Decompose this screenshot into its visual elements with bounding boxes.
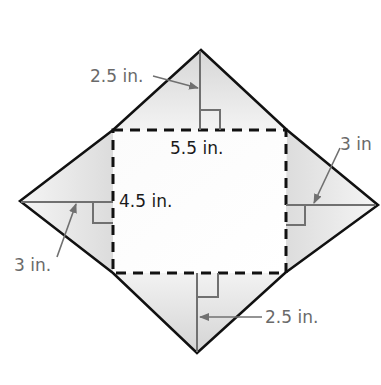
bottom-flap: [113, 273, 285, 353]
base-height-label: 4.5 in.: [119, 191, 172, 211]
pyramid-net-diagram: 2.5 in. 5.5 in. 4.5 in. 3 in 3 in. 2.5 i…: [0, 0, 381, 385]
left-flap-height-label: 3 in.: [14, 255, 51, 275]
top-flap-height-label: 2.5 in.: [90, 66, 143, 86]
right-flap-height-label: 3 in: [340, 134, 372, 154]
base-width-label: 5.5 in.: [170, 138, 223, 158]
bottom-flap-height-label: 2.5 in.: [265, 307, 318, 327]
